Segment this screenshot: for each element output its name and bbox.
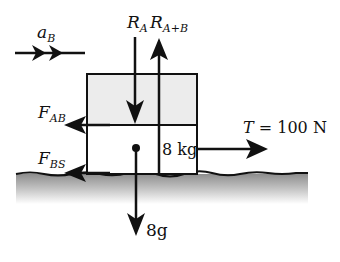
free-body-diagram: aB RA RA+B FAB FBS T = 100 N 8 kg 8g	[0, 0, 340, 262]
acceleration-label: aB	[37, 22, 55, 45]
ground-surface	[16, 174, 308, 204]
upper-block	[87, 74, 197, 125]
weight-label: 8g	[146, 220, 168, 240]
mass-label: 8 kg	[162, 140, 197, 159]
tension-label: T = 100 N	[243, 118, 327, 137]
acceleration-arrow	[15, 45, 85, 61]
friction-ab-label: FAB	[37, 102, 66, 125]
reaction-ab-label: RA+B	[149, 12, 188, 35]
reaction-a-label: RA	[126, 12, 148, 35]
tension-arrow	[197, 139, 268, 159]
friction-bs-label: FBS	[37, 148, 66, 171]
